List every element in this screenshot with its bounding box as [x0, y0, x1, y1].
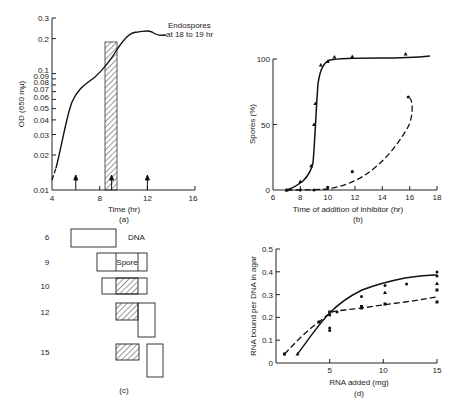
- d-ytick: 0: [269, 359, 274, 368]
- arrow-up-icon: [145, 175, 149, 180]
- b-xtick: 14: [378, 193, 387, 202]
- d-xtick: 5: [327, 366, 332, 375]
- d-ticks: [276, 249, 437, 363]
- b-ticks: [273, 59, 437, 190]
- a-ytick: 0.06: [33, 93, 49, 102]
- a-ytick: 0.2: [38, 35, 50, 44]
- b-x-axis-label: Time of addition of inhibitor (hr): [293, 205, 404, 214]
- c-row15-box: [147, 344, 163, 377]
- b-x-tick-labels: 6 8 10 12 14 16 18: [271, 193, 442, 202]
- a-ytick: 0.04: [33, 116, 49, 125]
- a-ytick: 0.02: [33, 151, 49, 160]
- b-panel-label: (b): [353, 215, 363, 224]
- d-ytick: 0.4: [262, 268, 274, 277]
- a-ytick: 0.05: [33, 104, 49, 113]
- a-annotation-line2: at 18 to 19 hr: [166, 30, 213, 39]
- figure-canvas: 0.3 0.2 0.1 0.09 0.08 0.07 0.06 0.05 0.0…: [0, 0, 456, 412]
- b-ytick: 100: [257, 55, 271, 64]
- c-row12-hatched: [116, 303, 138, 320]
- a-ytick: 0.01: [33, 186, 49, 195]
- panel-d: 0.5 0.4 0.3 0.2 0.1 0 5 10 15 RNA added …: [249, 245, 442, 398]
- a-xtick: 12: [143, 194, 152, 203]
- a-x-axis-label: Time (hr): [108, 205, 140, 214]
- c-row10-hatched: [116, 278, 138, 294]
- a-panel-label: (a): [119, 215, 129, 224]
- a-xtick: 16: [189, 194, 198, 203]
- a-arrows: [74, 175, 150, 190]
- a-y-ticks: [52, 18, 56, 155]
- a-ytick: 0.3: [38, 14, 50, 23]
- d-xtick: 10: [379, 366, 388, 375]
- a-curve-dashed-start: [52, 168, 56, 180]
- b-ytick: 50: [261, 121, 270, 130]
- c-row12-box: [138, 303, 155, 337]
- arrow-up-icon: [74, 175, 78, 180]
- b-circle-markers: [285, 95, 410, 191]
- a-xtick: 4: [50, 194, 55, 203]
- c-row-label: 15: [41, 348, 50, 357]
- d-panel-label: (d): [354, 389, 364, 398]
- c-spore-label: Spore: [116, 258, 138, 267]
- b-xtick: 8: [298, 193, 303, 202]
- b-xtick: 18: [433, 193, 442, 202]
- c-row-labels: 6 9 10 12 15: [41, 233, 50, 357]
- c-row15-hatched: [116, 344, 139, 360]
- d-y-tick-labels: 0.5 0.4 0.3 0.2 0.1 0: [262, 245, 274, 368]
- d-x-tick-labels: 5 10 15: [327, 366, 442, 375]
- c-row-label: 6: [45, 233, 50, 242]
- c-panel-label: (c): [119, 386, 129, 395]
- b-xtick: 16: [405, 193, 414, 202]
- d-ytick: 0.3: [262, 291, 274, 300]
- c-dna-label: DNA: [128, 233, 146, 242]
- b-triangle-markers: [285, 52, 408, 192]
- b-xtick: 10: [323, 193, 332, 202]
- b-xtick: 6: [271, 193, 276, 202]
- d-x-axis-label: RNA added (mg): [329, 378, 389, 387]
- a-y-axis-label: OD (650 mμ): [17, 80, 26, 127]
- d-ytick: 0.2: [262, 313, 274, 322]
- d-xtick: 15: [433, 366, 442, 375]
- d-ytick: 0.5: [262, 245, 274, 254]
- d-ytick: 0.1: [262, 336, 274, 345]
- c-row-label: 10: [41, 282, 50, 291]
- panel-a: 0.3 0.2 0.1 0.09 0.08 0.07 0.06 0.05 0.0…: [17, 14, 213, 224]
- d-y-axis-label: RNA bound per DNA in agar: [249, 256, 258, 356]
- panel-c: 6 9 10 12 15 DNA Spore (c): [41, 229, 163, 395]
- a-xtick: 8: [97, 194, 102, 203]
- c-row-label: 9: [45, 258, 50, 267]
- c-row-label: 12: [41, 308, 50, 317]
- panel-b: 100 50 0 6 8 10 12 14 16 18 Time of addi…: [248, 52, 442, 224]
- a-x-tick-labels: 4 8 12 16: [50, 194, 198, 203]
- a-ytick: 0.03: [33, 131, 49, 140]
- c-dna-box: [71, 229, 116, 247]
- d-solid-curve: [298, 275, 438, 354]
- b-dashed-curve: [287, 98, 412, 190]
- b-solid-curve: [287, 56, 430, 190]
- b-y-tick-labels: 100 50 0: [257, 55, 271, 195]
- a-annotation-line1: Endospores: [168, 21, 211, 30]
- a-y-tick-labels: 0.3 0.2 0.1 0.09 0.08 0.07 0.06 0.05 0.0…: [33, 14, 49, 195]
- b-y-axis-label: Spores (%): [248, 104, 257, 144]
- b-xtick: 12: [351, 193, 360, 202]
